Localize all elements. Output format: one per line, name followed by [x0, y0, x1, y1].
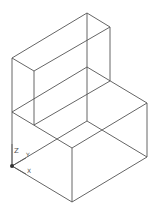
ucs-axis-line: [12, 158, 26, 166]
edge-line: [12, 67, 87, 112]
ucs-z-label: Z: [14, 148, 19, 155]
ucs-origin-marker: [10, 164, 14, 168]
cad-viewport[interactable]: Z Y X: [0, 0, 155, 214]
edge-line: [12, 112, 72, 148]
edge-line: [34, 27, 110, 71]
edge-line: [12, 58, 34, 71]
edge-line: [72, 157, 147, 202]
ucs-x-label: X: [27, 168, 31, 174]
edge-line: [72, 103, 147, 148]
edge-line: [87, 121, 147, 157]
edge-line: [12, 13, 87, 58]
ucs-y-label: Y: [26, 152, 30, 158]
ucs-axis-line: [12, 166, 26, 174]
edge-line: [87, 13, 110, 27]
edge-line: [87, 67, 147, 103]
isometric-box-drawing: [0, 0, 155, 214]
edge-line: [34, 81, 110, 125]
